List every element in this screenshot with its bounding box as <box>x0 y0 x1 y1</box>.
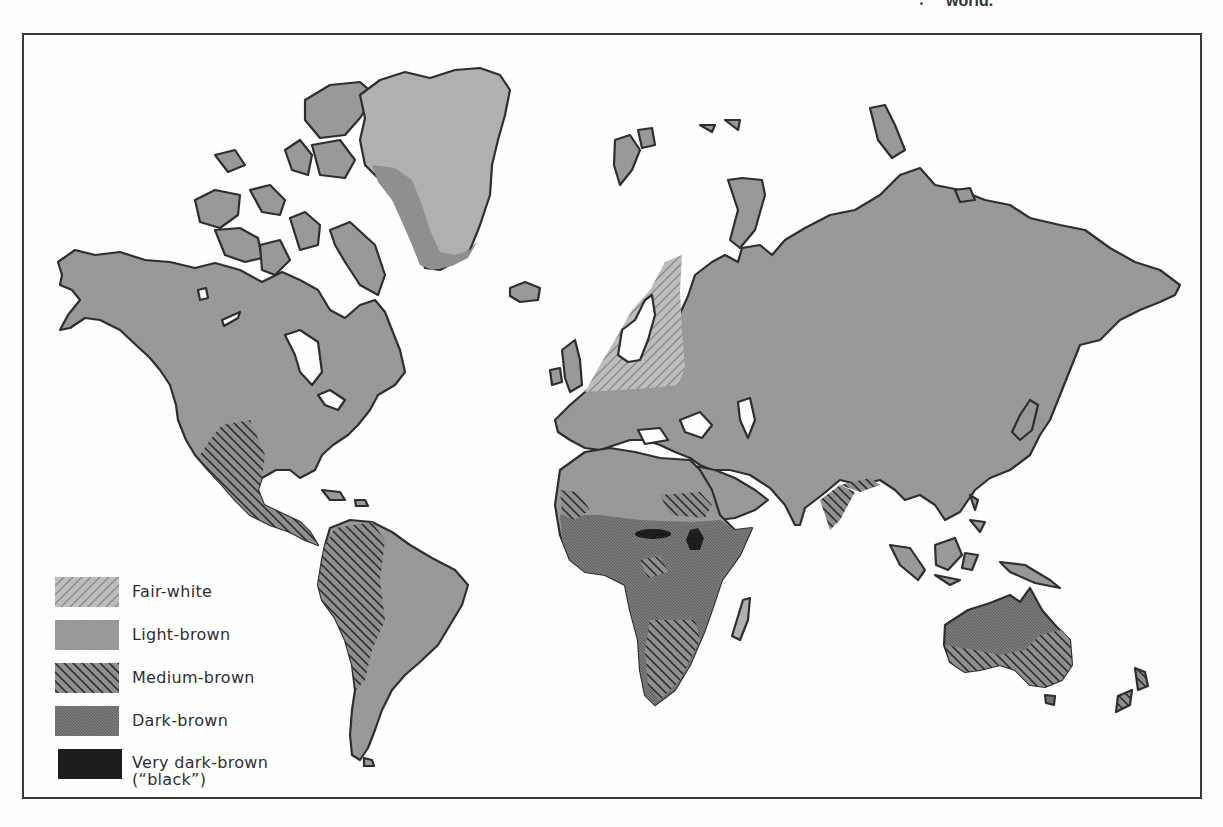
north-america <box>58 250 405 545</box>
map-legend: Fair-white Light-brown Medium-brown Dark… <box>55 577 268 792</box>
legend-item-light-brown: Light-brown <box>55 620 268 663</box>
light-brown-swatch-icon <box>55 620 119 650</box>
region-very-dark-brown-1 <box>635 529 671 539</box>
legend-label: Very dark-brown (“black”) <box>132 749 268 788</box>
legend-label: Light-brown <box>132 620 230 643</box>
legend-label: Dark-brown <box>132 706 228 729</box>
legend-label-line2: (“black”) <box>132 771 268 788</box>
legend-label: Fair-white <box>132 577 212 600</box>
legend-item-very-dark-brown: Very dark-brown (“black”) <box>55 749 268 792</box>
fair-white-swatch-icon <box>55 577 119 607</box>
legend-item-dark-brown: Dark-brown <box>55 706 268 749</box>
very-dark-brown-swatch-icon <box>58 749 122 779</box>
legend-item-fair-white: Fair-white <box>55 577 268 620</box>
legend-label-line1: Very dark-brown <box>132 754 268 771</box>
medium-brown-swatch-icon <box>55 663 119 693</box>
legend-item-medium-brown: Medium-brown <box>55 663 268 706</box>
dark-brown-swatch-icon <box>55 706 119 736</box>
legend-label: Medium-brown <box>132 663 255 686</box>
